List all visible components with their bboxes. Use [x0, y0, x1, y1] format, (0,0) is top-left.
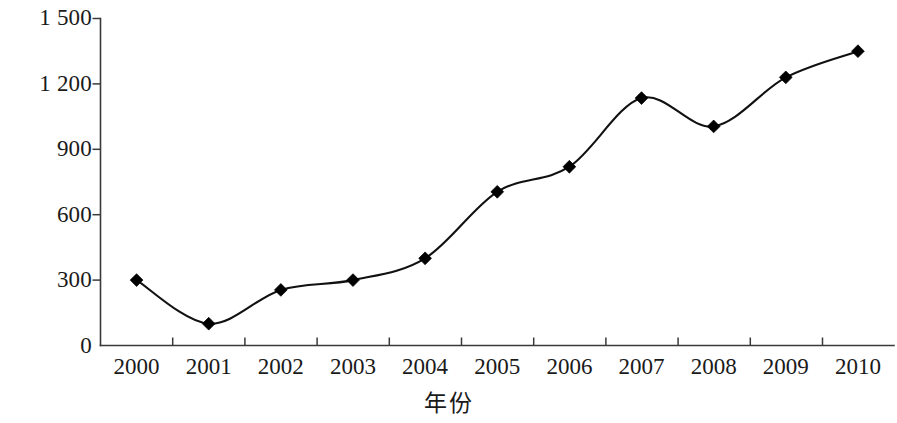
x-tick-label-wrap-2003: 2003: [317, 352, 389, 382]
axes-group: [101, 19, 895, 346]
data-point-2001: [202, 317, 215, 330]
x-tick-label-wrap-2005: 2005: [461, 352, 533, 382]
data-point-2002: [274, 284, 287, 297]
x-tick-label-2004: 2004: [389, 352, 461, 382]
x-tick-label-2006: 2006: [533, 352, 605, 382]
y-tick-label-900: 900: [57, 137, 92, 160]
data-point-2008: [707, 120, 720, 133]
waste-emission-line-chart: 1 500 1 200 900 600 300 0 20002001200220…: [0, 0, 897, 423]
x-tick-label-2007: 2007: [605, 352, 677, 382]
x-axis-ticks: [173, 338, 823, 346]
x-tick-label-wrap-2007: 2007: [605, 352, 677, 382]
x-tick-label-2001: 2001: [173, 352, 245, 382]
y-tick-label-1500: 1 500: [39, 6, 92, 29]
data-point-2009: [779, 71, 792, 84]
y-axis-title: 废物排放量/万吨: [0, 236, 149, 404]
x-tick-label-wrap-2008: 2008: [678, 352, 750, 382]
y-tick-label-600: 600: [57, 203, 92, 226]
x-tick-label-wrap-2001: 2001: [173, 352, 245, 382]
data-point-2004: [419, 252, 432, 265]
x-tick-label-wrap-2010: 2010: [822, 352, 894, 382]
x-tick-label-2009: 2009: [750, 352, 822, 382]
data-point-markers: [130, 45, 864, 330]
data-point-2003: [347, 274, 360, 287]
y-axis-title-container: 废物排放量/万吨: [2, 60, 30, 300]
data-point-2010: [852, 45, 865, 58]
x-tick-label-2003: 2003: [317, 352, 389, 382]
x-tick-label-wrap-2009: 2009: [750, 352, 822, 382]
x-tick-label-2002: 2002: [245, 352, 317, 382]
x-tick-label-2008: 2008: [678, 352, 750, 382]
y-tick-label-1200: 1 200: [39, 72, 92, 95]
data-point-2005: [491, 185, 504, 198]
x-tick-label-wrap-2002: 2002: [245, 352, 317, 382]
data-point-2007: [635, 92, 648, 105]
x-tick-label-2005: 2005: [461, 352, 533, 382]
x-tick-label-wrap-2004: 2004: [389, 352, 461, 382]
x-tick-label-wrap-2006: 2006: [533, 352, 605, 382]
x-tick-label-2010: 2010: [822, 352, 894, 382]
x-axis-title: 年份: [0, 392, 897, 415]
